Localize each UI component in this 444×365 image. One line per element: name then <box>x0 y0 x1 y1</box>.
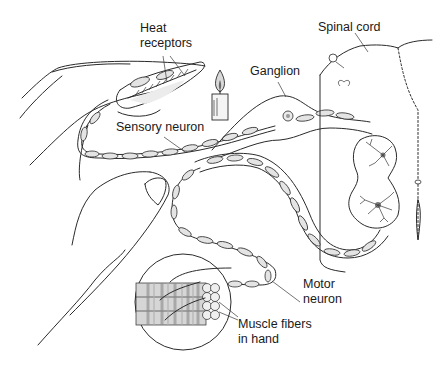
label-muscle-fibers: Muscle fibers in hand <box>238 317 312 347</box>
reflex-arc-diagram: Heat receptors Spinal cord Ganglion Sens… <box>0 0 444 365</box>
motor-neuron-body <box>360 192 394 222</box>
candle <box>212 70 228 120</box>
label-ganglion: Ganglion <box>250 64 300 79</box>
muscle-fibers-inset <box>135 254 238 350</box>
label-heat-receptors-line1: Heat <box>140 21 192 36</box>
label-sensory-neuron: Sensory neuron <box>116 120 204 135</box>
label-spinal-cord: Spinal cord <box>318 20 381 35</box>
diagram-artwork <box>0 0 444 365</box>
label-motor-neuron-line1: Motor <box>303 277 342 292</box>
label-motor-neuron-line2: neuron <box>303 292 342 307</box>
label-heat-receptors-line2: receptors <box>140 36 192 51</box>
interneuron-dorsal <box>366 139 392 166</box>
label-heat-receptors: Heat receptors <box>140 21 192 51</box>
ganglion <box>212 82 372 160</box>
fingertip-receptors <box>116 56 204 116</box>
label-motor-neuron: Motor neuron <box>303 277 342 307</box>
label-muscle-fibers-line1: Muscle fibers <box>238 317 312 332</box>
label-muscle-fibers-line2: in hand <box>238 332 312 347</box>
